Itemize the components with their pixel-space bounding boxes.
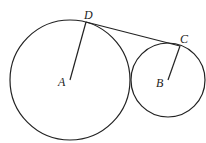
label-b: B bbox=[156, 76, 164, 90]
label-a: A bbox=[57, 75, 66, 89]
geometry-diagram: D C A B bbox=[0, 0, 206, 143]
label-c: C bbox=[180, 32, 189, 46]
label-d: D bbox=[83, 8, 93, 22]
radius-bc bbox=[168, 46, 180, 80]
tangent-dc bbox=[86, 22, 180, 46]
radius-ad bbox=[70, 22, 86, 80]
